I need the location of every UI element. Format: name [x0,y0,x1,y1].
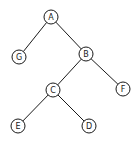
edge-c-d [58,95,84,121]
tree-node-g: G [12,50,26,64]
tree-node-d: D [82,119,96,133]
tree-node-a: A [44,10,58,24]
node-label: D [86,122,92,131]
tree-node-f: F [116,82,130,96]
tree-edges [23,22,118,121]
edge-c-e [23,95,48,121]
edge-a-b [56,22,81,49]
node-label: A [48,13,54,22]
node-label: F [121,85,126,94]
edge-b-c [58,59,82,85]
tree-node-e: E [11,119,25,133]
binary-tree-diagram: AGBCFED [0,0,138,143]
edge-a-g [23,22,46,51]
node-label: E [15,122,20,131]
node-label: B [83,50,89,59]
edge-b-f [91,59,118,84]
tree-node-b: B [79,47,93,61]
node-label: C [50,86,56,95]
node-label: G [16,53,22,62]
tree-node-c: C [46,83,60,97]
